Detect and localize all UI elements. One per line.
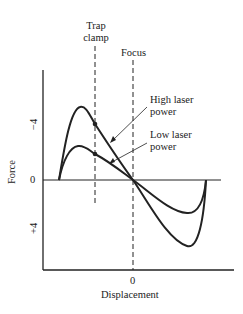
trap-clamp-label-line1: Trap	[80, 20, 112, 32]
x-axis-label: Displacement	[101, 289, 159, 301]
high-label-line1: High laser	[150, 94, 193, 106]
optical-trap-force-diagram: Trap clamp Focus High laser power Low la…	[0, 0, 243, 314]
y-tick-zero: 0	[30, 174, 35, 186]
low-curve-clamp-point	[93, 152, 98, 157]
y-tick-negative: −4	[28, 119, 40, 130]
trap-clamp-label-line2: clamp	[80, 32, 112, 44]
y-tick-positive: +4	[28, 223, 40, 234]
low-laser-power-label: Low laser power	[150, 129, 192, 153]
high-label-arrowhead	[110, 136, 116, 143]
low-laser-power-curve	[59, 146, 206, 213]
trap-clamp-label: Trap clamp	[80, 20, 112, 44]
high-label-line2: power	[150, 106, 193, 118]
low-label-line2: power	[150, 141, 192, 153]
high-curve-clamp-point	[93, 122, 98, 127]
low-label-arrowhead	[109, 158, 115, 164]
focus-label: Focus	[121, 47, 146, 59]
y-axis-label: Force	[6, 160, 18, 184]
low-label-line1: Low laser	[150, 129, 192, 141]
high-laser-power-label: High laser power	[150, 94, 193, 118]
high-label-arrow	[112, 107, 147, 141]
low-label-arrow	[112, 143, 147, 162]
x-tick-zero: 0	[130, 275, 135, 287]
